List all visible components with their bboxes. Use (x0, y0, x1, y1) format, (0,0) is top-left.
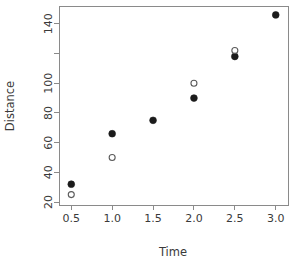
data-point-open (232, 48, 238, 54)
data-point-filled (109, 130, 116, 137)
x-tick-label: 1.5 (144, 212, 162, 225)
plot-canvas: 0.51.01.52.02.53.0 20406080100140 Time D… (0, 0, 304, 263)
scatter-plot-figure: 0.51.01.52.02.53.0 20406080100140 Time D… (0, 0, 304, 263)
data-point-filled (150, 117, 157, 124)
data-point-filled (231, 53, 238, 60)
x-axis-ticks: 0.51.01.52.02.53.0 (63, 205, 285, 225)
plot-frame (59, 6, 288, 205)
data-point-open (68, 192, 74, 198)
data-point-open (191, 80, 197, 86)
x-axis-title: Time (158, 245, 187, 259)
x-tick-label: 2.0 (185, 212, 203, 225)
y-tick-label: 60 (43, 136, 56, 150)
x-tick-label: 2.5 (226, 212, 244, 225)
data-point-filled (272, 12, 279, 19)
y-axis-title: Distance (3, 81, 17, 131)
data-point-filled (68, 181, 75, 188)
x-tick-label: 3.0 (267, 212, 285, 225)
plot-box-border (59, 6, 288, 205)
y-tick-label: 40 (43, 165, 56, 179)
y-tick-label: 140 (43, 13, 56, 34)
data-points (68, 12, 279, 198)
y-tick-label: 100 (43, 73, 56, 94)
x-tick-label: 1.0 (103, 212, 121, 225)
data-point-open (109, 154, 115, 160)
y-axis-ticks: 20406080100140 (43, 13, 60, 209)
y-tick-label: 20 (43, 195, 56, 209)
y-tick-label: 80 (43, 106, 56, 120)
data-point-filled (191, 95, 198, 102)
x-tick-label: 0.5 (63, 212, 81, 225)
